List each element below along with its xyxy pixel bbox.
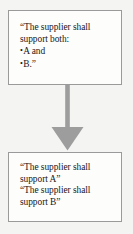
text-line: support A”: [20, 174, 117, 186]
text-line: “The supplier shall: [20, 22, 117, 34]
node-requirement-combined: “The supplier shall support both: •A and…: [8, 10, 122, 85]
bullet-list-item-label: A and: [23, 46, 45, 56]
node-requirement-combined-text: “The supplier shall support both: •A and…: [20, 22, 117, 70]
node-requirement-split-text: “The supplier shall support A” “The supp…: [20, 162, 117, 208]
requirement-decomposition-diagram: “The supplier shall support both: •A and…: [0, 0, 133, 234]
bullet-list-item: •A and: [20, 45, 117, 58]
downward-arrow-icon: [51, 85, 84, 151]
text-line: support both:: [20, 34, 117, 46]
bullet-list-item-label: B.”: [23, 59, 36, 69]
text-line: support B”: [20, 197, 117, 209]
text-line: “The supplier shall: [20, 185, 117, 197]
text-line: “The supplier shall: [20, 162, 117, 174]
node-requirement-split: “The supplier shall support A” “The supp…: [8, 152, 122, 222]
bullet-list-item: •B.”: [20, 58, 117, 71]
